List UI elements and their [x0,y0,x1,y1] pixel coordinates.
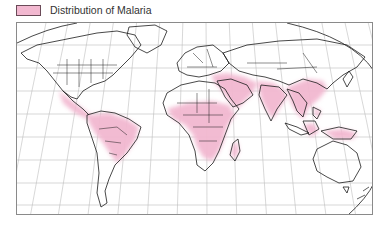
legend-label: Distribution of Malaria [50,4,152,16]
map-legend: Distribution of Malaria [16,3,152,17]
malaria-areas [59,73,357,163]
world-map [16,22,373,215]
legend-swatch-malaria [16,5,41,16]
world-map-svg [17,23,373,215]
